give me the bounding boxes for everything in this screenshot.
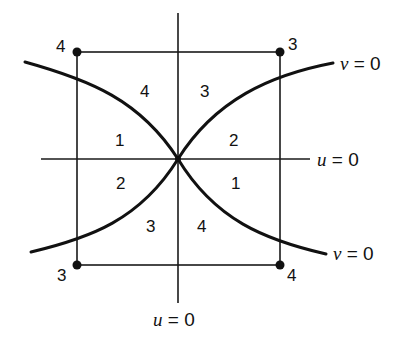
curve-label-v0-top: v = 0	[340, 53, 381, 74]
saddle-diagram: 4 3 3 4 4 3 1 2 2 1 3 4 v = 0 v = 0 u = …	[0, 0, 407, 339]
corner-dot-bottom-right	[276, 261, 285, 270]
saddle-point	[175, 156, 181, 162]
region-label-left-upper: 1	[115, 131, 124, 150]
corner-dot-top-right	[276, 48, 285, 57]
curve-label-u0-vertical: u = 0	[153, 309, 195, 330]
corner-dot-bottom-left	[73, 261, 82, 270]
curve-label-u0-horizontal: u = 0	[317, 149, 359, 170]
corner-label-bottom-left: 3	[57, 266, 66, 285]
region-label-right-lower: 1	[231, 174, 240, 193]
region-label-lower-left: 3	[146, 217, 155, 236]
region-label-lower-right: 4	[197, 217, 206, 236]
corner-label-top-right: 3	[288, 35, 297, 54]
corner-label-top-left: 4	[56, 37, 65, 56]
region-label-upper-left: 4	[140, 82, 149, 101]
corner-label-bottom-right: 4	[287, 266, 296, 285]
region-label-upper-right: 3	[200, 82, 209, 101]
region-label-left-lower: 2	[116, 174, 125, 193]
region-label-right-upper: 2	[229, 131, 238, 150]
separatrix-top-v0	[25, 62, 333, 159]
curve-label-v0-bottom: v = 0	[333, 243, 374, 264]
corner-dot-top-left	[73, 48, 82, 57]
